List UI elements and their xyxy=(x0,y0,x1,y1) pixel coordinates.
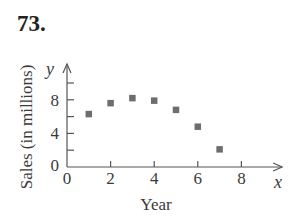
x-tick-label: 2 xyxy=(106,169,115,188)
y-tick-label: 8 xyxy=(51,91,60,110)
x-axis-variable: x xyxy=(273,172,282,192)
data-point-square xyxy=(173,107,180,114)
data-points xyxy=(86,95,223,153)
tick-labels: 02468048 xyxy=(51,91,246,188)
x-tick-label: 8 xyxy=(237,169,246,188)
x-tick-label: 4 xyxy=(150,169,159,188)
y-tick-label: 4 xyxy=(51,124,60,143)
data-point-square xyxy=(86,111,93,118)
x-axis-title: Year xyxy=(140,195,172,214)
x-tick-label: 6 xyxy=(194,169,203,188)
x-tick-label: 0 xyxy=(63,169,72,188)
data-point-square xyxy=(107,100,114,107)
ticks xyxy=(67,83,241,167)
data-point-square xyxy=(195,123,202,129)
data-point-square xyxy=(129,95,136,102)
scatter-chart: 02468048 Sales (in millions) Year y x xyxy=(0,0,304,223)
y-tick-label: 0 xyxy=(51,156,60,175)
y-axis-title: Sales (in millions) xyxy=(17,65,36,190)
y-axis-variable: y xyxy=(44,59,54,79)
data-point-square xyxy=(216,146,223,153)
data-point-square xyxy=(151,97,158,104)
axes xyxy=(63,64,282,171)
